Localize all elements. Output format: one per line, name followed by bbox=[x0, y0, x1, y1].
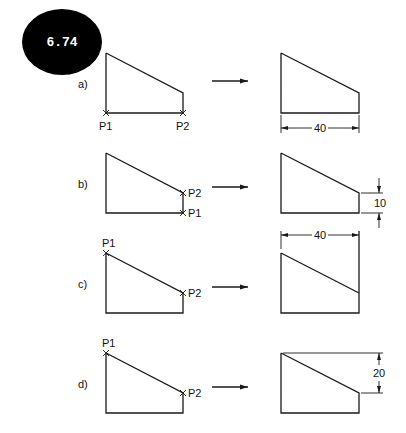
point-label: P2 bbox=[176, 120, 189, 132]
row-a: a) P1 P2 40 bbox=[78, 53, 359, 134]
dimension-label: 20 bbox=[373, 367, 385, 379]
figure-number-badge: 6.74 bbox=[22, 9, 102, 75]
dimension-label: 40 bbox=[314, 229, 326, 241]
source-shape: P1 P2 bbox=[99, 53, 189, 132]
source-shape: P2 P1 bbox=[106, 153, 201, 219]
badge-text: 6.74 bbox=[46, 35, 77, 50]
point-label: P1 bbox=[102, 337, 115, 349]
point-label: P1 bbox=[188, 207, 201, 219]
row-c: c) P1 P2 40 bbox=[78, 229, 359, 313]
source-shape: P1 P2 bbox=[102, 237, 201, 313]
point-label: P2 bbox=[188, 387, 201, 399]
row-label: d) bbox=[78, 378, 88, 390]
result-shape: 40 bbox=[281, 53, 359, 134]
dimension-label: 10 bbox=[374, 197, 386, 209]
point-label: P2 bbox=[188, 187, 201, 199]
result-shape: 20 bbox=[281, 353, 385, 413]
result-shape: 10 bbox=[281, 153, 386, 228]
row-label: a) bbox=[78, 78, 88, 90]
source-shape: P1 P2 bbox=[102, 337, 201, 413]
result-shape: 40 bbox=[281, 229, 359, 313]
row-b: b) P2 P1 10 bbox=[78, 153, 386, 228]
figure-canvas: 6.74 a) P1 P2 40 b) bbox=[0, 0, 406, 433]
row-d: d) P1 P2 20 bbox=[78, 337, 385, 413]
point-label: P2 bbox=[188, 287, 201, 299]
row-label: b) bbox=[78, 178, 88, 190]
point-label: P1 bbox=[99, 120, 112, 132]
dimension-label: 40 bbox=[314, 122, 326, 134]
point-label: P1 bbox=[102, 237, 115, 249]
row-label: c) bbox=[78, 278, 87, 290]
